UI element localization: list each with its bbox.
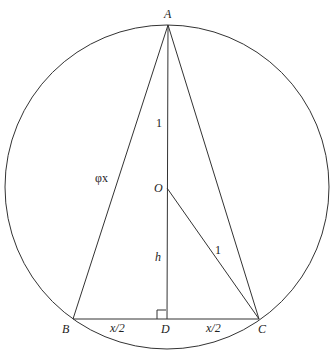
point-label-A: A <box>163 7 172 21</box>
side-AB <box>73 25 168 319</box>
side-AC <box>168 25 259 319</box>
label-BD: x/2 <box>109 321 125 335</box>
label-AO: 1 <box>156 116 162 130</box>
geometry-diagram: A B C D O 1 1 h φx x/2 x/2 <box>0 0 330 357</box>
right-angle-marker <box>157 310 166 319</box>
point-label-D: D <box>160 322 170 336</box>
point-label-B: B <box>62 322 70 336</box>
altitude-AD <box>167 25 168 319</box>
label-DC: x/2 <box>205 321 221 335</box>
label-OD: h <box>155 250 161 264</box>
label-AB: φx <box>95 171 108 185</box>
label-OC: 1 <box>215 243 221 257</box>
radius-OC <box>167 188 259 319</box>
point-label-O: O <box>154 181 163 195</box>
point-label-C: C <box>258 322 267 336</box>
